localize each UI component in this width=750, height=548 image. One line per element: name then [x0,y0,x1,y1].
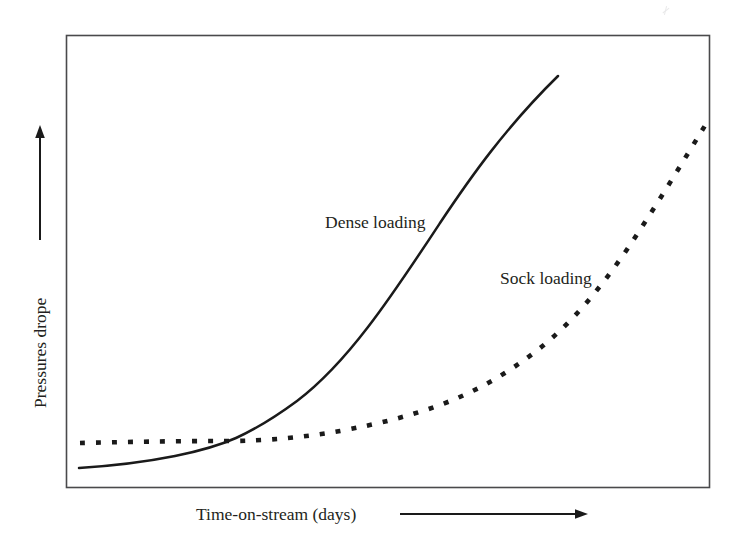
y-axis-title: Pressures drope [30,297,50,408]
figure-root: Pressures drope Time-on-stream (days) De… [0,0,750,548]
y-axis-arrow [35,125,45,240]
series-label-dense-loading: Dense loading [325,212,426,232]
x-axis-title: Time-on-stream (days) [196,504,356,524]
series-label-sock-loading: Sock loading [500,268,592,288]
plot-area-frame [67,36,710,488]
x-axis-arrow [400,509,588,519]
pressure-drop-chart: Pressures drope Time-on-stream (days) De… [0,0,750,548]
